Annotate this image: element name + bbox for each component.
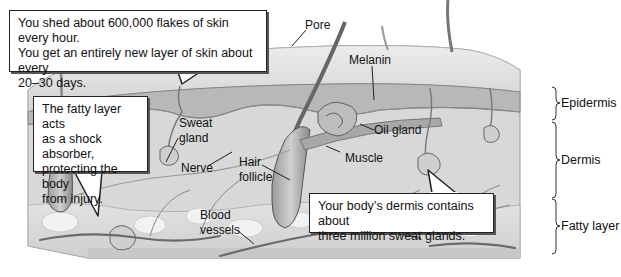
callout-line: three million sweat glands. <box>318 229 485 244</box>
label-pore: Pore <box>305 18 330 32</box>
label-muscle: Muscle <box>345 151 383 165</box>
callout-line: as a shock absorber, <box>42 132 139 162</box>
label-line: gland <box>179 131 212 146</box>
label-hair-follicle: Hair follicle <box>239 155 272 185</box>
callout-line: from injury. <box>42 192 139 207</box>
callout-line: 20–30 days. <box>18 76 258 91</box>
skin-diagram: You shed about 600,000 flakes of skin ev… <box>0 0 621 277</box>
label-line: Hair <box>239 155 272 170</box>
callout-fatty-layer: The fatty layer acts as a shock absorber… <box>33 96 148 172</box>
label-line: Sweat <box>179 116 212 131</box>
label-oil-gland: Oil gland <box>374 123 421 137</box>
callout-line: The fatty layer acts <box>42 102 139 132</box>
label-nerve: Nerve <box>181 161 213 175</box>
callout-line: protecting the body <box>42 162 139 192</box>
label-sweat-gland: Sweat gland <box>179 116 212 146</box>
callout-line: You get an entirely new layer of skin ab… <box>18 46 258 76</box>
callout-line: You shed about 600,000 flakes of skin ev… <box>18 16 258 46</box>
layer-label-fatty-layer: Fatty layer <box>561 219 619 233</box>
label-line: follicle <box>239 170 272 185</box>
layer-label-epidermis: Epidermis <box>561 96 617 110</box>
callout-dermis-sweat-glands: Your body’s dermis contains about three … <box>309 193 494 233</box>
callout-line: Your body’s dermis contains about <box>318 199 485 229</box>
label-line: Blood <box>200 208 240 223</box>
label-line: vessels <box>200 223 240 238</box>
label-blood-vessels: Blood vessels <box>200 208 240 238</box>
callout-skin-shedding: You shed about 600,000 flakes of skin ev… <box>9 10 267 72</box>
label-melanin: Melanin <box>349 53 391 67</box>
layer-label-dermis: Dermis <box>561 153 601 167</box>
